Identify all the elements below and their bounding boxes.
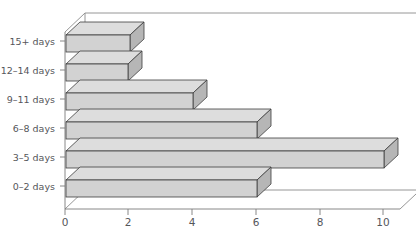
- x-tick-label-8: 8: [317, 216, 324, 228]
- bar-front-face: [66, 35, 130, 52]
- bar-3-5-days: [66, 138, 398, 168]
- bar-6-8-days: [66, 109, 271, 139]
- x-tick-label-10: 10: [376, 216, 389, 228]
- y-tick-label-12-14: 12–14 days: [1, 65, 55, 76]
- x-tick-label-2: 2: [125, 216, 132, 228]
- bar-0-2-days: [66, 167, 271, 197]
- bar-front-face: [66, 180, 257, 197]
- y-tick-label-15plus: 15+ days: [10, 36, 56, 47]
- bar-chart-plot: 15+ days 12–14 days 9–11 days 6–8 days 3…: [0, 0, 416, 228]
- bar-front-face: [66, 93, 193, 110]
- y-tick-label-0-2: 0–2 days: [13, 181, 55, 192]
- bar-top-face: [66, 167, 271, 180]
- bar-9-11-days: [66, 80, 207, 110]
- y-tick-label-6-8: 6–8 days: [13, 123, 55, 134]
- bar-top-face: [66, 138, 398, 151]
- y-tick-label-9-11: 9–11 days: [7, 94, 55, 105]
- x-tick-label-4: 4: [189, 216, 196, 228]
- chart-container: Days absent from work through illness du…: [0, 0, 416, 228]
- y-tick-label-3-5: 3–5 days: [13, 152, 55, 163]
- bar-top-face: [66, 109, 271, 122]
- bar-front-face: [66, 122, 257, 139]
- bar-15plus-days: [66, 22, 144, 52]
- bar-front-face: [66, 64, 128, 81]
- bar-top-face: [66, 80, 207, 93]
- x-tick-label-0: 0: [62, 216, 69, 228]
- bar-front-face: [66, 151, 384, 168]
- bar-12-14-days: [66, 51, 142, 81]
- x-tick-label-6: 6: [253, 216, 260, 228]
